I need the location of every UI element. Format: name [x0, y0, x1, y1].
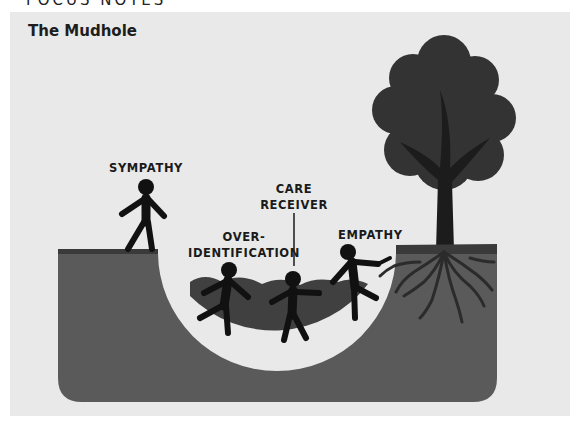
over-identification-label: OVER- IDENTIFICATION	[188, 229, 300, 261]
care-receiver-label: CARE RECEIVER	[254, 181, 334, 213]
care-receiver-label-line2: RECEIVER	[254, 197, 334, 213]
sympathy-label: SYMPATHY	[109, 160, 183, 176]
over-identification-label-line1: OVER-	[188, 229, 300, 245]
over-identification-label-line2: IDENTIFICATION	[188, 245, 300, 261]
sympathy-person-icon	[122, 179, 164, 249]
care-receiver-label-line1: CARE	[254, 181, 334, 197]
empathy-label: EMPATHY	[338, 227, 403, 243]
ground	[58, 244, 497, 402]
